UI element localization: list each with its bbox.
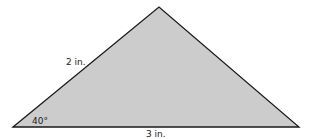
triangle-figure: 2 in. 40° 3 in. (0, 0, 312, 139)
triangle-shape (13, 7, 299, 127)
left-side-label: 2 in. (66, 57, 86, 67)
base-label: 3 in. (146, 129, 166, 139)
triangle-diagram: 2 in. 40° 3 in. (0, 0, 312, 139)
angle-label: 40° (32, 116, 48, 126)
